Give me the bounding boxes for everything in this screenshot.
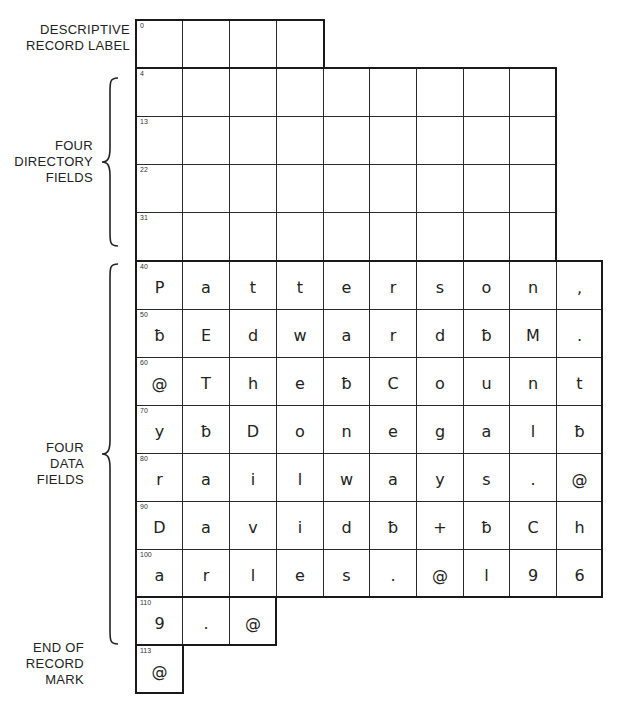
grid-cell: 60@ [136, 357, 183, 406]
position-number: 80 [140, 455, 148, 462]
grid-cell: E [182, 309, 230, 358]
character: . [183, 614, 229, 633]
grid-cell: @ [556, 453, 603, 502]
character: . [370, 566, 416, 585]
character: d [324, 518, 369, 537]
character: l [510, 422, 556, 441]
character: a [183, 470, 229, 489]
character: l [230, 566, 276, 585]
caption-line: DIRECTORY [0, 154, 93, 170]
character: P [137, 278, 182, 297]
grid-cell: d [416, 309, 464, 358]
grid-cell: a [463, 405, 510, 454]
grid-cell [323, 212, 370, 261]
grid-cell: 90D [136, 501, 183, 550]
character: e [370, 422, 416, 441]
grid-cell: i [276, 501, 324, 550]
character: T [183, 374, 229, 393]
grid-cell [229, 164, 277, 213]
grid-cell [369, 164, 417, 213]
grid-cell: a [369, 453, 417, 502]
grid-cell: s [416, 261, 464, 310]
grid-cell: s [463, 453, 510, 502]
character: ƀ [464, 518, 509, 537]
end-of-record-caption: END OF RECORD MARK [0, 640, 84, 688]
character: r [370, 278, 416, 297]
grid-cell: 6 [556, 549, 603, 598]
grid-cell: + [416, 501, 464, 550]
grid-cell [509, 68, 557, 117]
character: a [464, 422, 509, 441]
character: s [324, 566, 369, 585]
character: r [137, 470, 182, 489]
grid-cell: 22 [136, 164, 183, 213]
grid-cell: r [369, 261, 417, 310]
grid-cell: T [182, 357, 230, 406]
data-brace-icon [100, 262, 122, 646]
grid-cell [509, 116, 557, 165]
grid-cell [182, 68, 230, 117]
character: a [370, 470, 416, 489]
character: . [510, 470, 556, 489]
grid-cell [416, 212, 464, 261]
character: w [277, 326, 323, 345]
grid-cell: t [276, 261, 324, 310]
grid-cell: @ [416, 549, 464, 598]
grid-cell: . [369, 549, 417, 598]
character: n [510, 278, 556, 297]
character: r [370, 326, 416, 345]
grid-cell: i [229, 453, 277, 502]
position-number: 110 [140, 599, 151, 606]
grid-cell: 100a [136, 549, 183, 598]
record-mark-char: @ [137, 662, 182, 681]
grid-cell: D [229, 405, 277, 454]
character: s [417, 278, 463, 297]
caption-line: END OF [0, 640, 84, 656]
grid-cell: , [556, 261, 603, 310]
grid-cell [276, 212, 324, 261]
character: i [277, 518, 323, 537]
character: D [230, 422, 276, 441]
grid-cell: ƀ [182, 405, 230, 454]
grid-cell [509, 212, 557, 261]
grid-cell: e [369, 405, 417, 454]
character: a [183, 518, 229, 537]
grid-cell: r [182, 549, 230, 598]
position-number: 100 [140, 551, 152, 558]
grid-cell [229, 116, 277, 165]
end-of-record-cell: 113 @ [136, 645, 183, 693]
character: r [183, 566, 229, 585]
grid-cell: ƀ [556, 405, 603, 454]
grid-cell: ƀ [323, 357, 370, 406]
grid-cell: ƀ [463, 501, 510, 550]
position-number: 113 [140, 647, 151, 654]
descriptive-record-label-caption: DESCRIPTIVE RECORD LABEL [0, 22, 130, 54]
grid-cell: 9 [509, 549, 557, 598]
grid-cell [182, 164, 230, 213]
grid-cell: s [323, 549, 370, 598]
character: ƀ [183, 422, 229, 441]
grid-cell [416, 116, 464, 165]
grid-cell: l [229, 549, 277, 598]
grid-cell: e [276, 357, 324, 406]
position-number: 22 [140, 166, 148, 173]
grid-cell: ƀ [369, 501, 417, 550]
character: w [324, 470, 369, 489]
grid-cell [369, 68, 417, 117]
grid-cell: r [369, 309, 417, 358]
character: @ [137, 374, 182, 393]
grid-cell [229, 20, 277, 69]
grid-cell: d [323, 501, 370, 550]
character: l [277, 470, 323, 489]
grid-cell: 31 [136, 212, 183, 261]
character: a [324, 326, 369, 345]
grid-cell: g [416, 405, 464, 454]
character: n [510, 374, 556, 393]
grid-cell [416, 164, 464, 213]
character: t [277, 278, 323, 297]
grid-cell: a [323, 309, 370, 358]
grid-cell: n [509, 261, 557, 310]
grid-cell [276, 20, 324, 69]
grid-cell [463, 116, 510, 165]
character: a [183, 278, 229, 297]
